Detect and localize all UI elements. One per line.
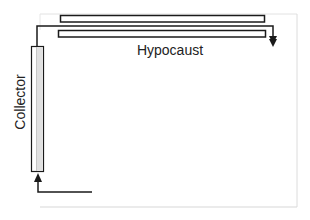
hypocaust-label: Hypocaust bbox=[137, 42, 203, 58]
collector-label: Collector bbox=[12, 74, 28, 130]
hypocaust-lower-channel bbox=[59, 31, 266, 38]
solar-air-heating-diagram: Hypocaust Collector bbox=[0, 0, 310, 220]
collector bbox=[32, 47, 44, 172]
airflow-return-line bbox=[38, 181, 92, 192]
arrow-up-icon bbox=[34, 173, 42, 182]
arrow-down-icon bbox=[269, 39, 277, 47]
hypocaust-upper-channel bbox=[61, 16, 265, 23]
